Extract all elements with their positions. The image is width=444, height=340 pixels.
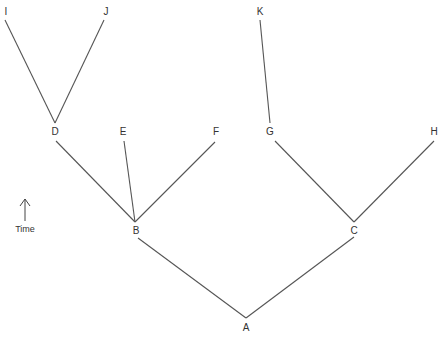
labels-group: ABCDEFGHIJK xyxy=(5,6,438,333)
time-axis-label: Time xyxy=(15,224,35,234)
edge-d-j xyxy=(55,20,104,123)
edges-group xyxy=(5,20,434,318)
tree-svg: ABCDEFGHIJK Time xyxy=(0,0,444,340)
phylogenetic-tree-diagram: ABCDEFGHIJK Time xyxy=(0,0,444,340)
node-label-e: E xyxy=(120,126,127,137)
node-label-b: B xyxy=(133,225,140,236)
node-label-k: K xyxy=(257,6,264,17)
edge-d-i xyxy=(5,20,55,123)
node-label-j: J xyxy=(104,6,109,17)
edge-c-g xyxy=(275,141,354,222)
node-label-g: G xyxy=(266,126,274,137)
edge-a-c xyxy=(246,237,354,318)
edge-b-e xyxy=(124,141,135,222)
edge-b-f xyxy=(135,142,215,222)
node-label-i: I xyxy=(5,6,8,17)
node-label-h: H xyxy=(430,126,437,137)
edge-a-b xyxy=(138,238,246,318)
edge-b-d xyxy=(56,141,135,222)
edge-c-h xyxy=(354,141,434,222)
time-axis: Time xyxy=(15,199,35,234)
node-label-d: D xyxy=(51,126,58,137)
edge-g-k xyxy=(260,20,270,123)
node-label-c: C xyxy=(350,225,357,236)
node-label-f: F xyxy=(213,126,219,137)
node-label-a: A xyxy=(243,322,250,333)
